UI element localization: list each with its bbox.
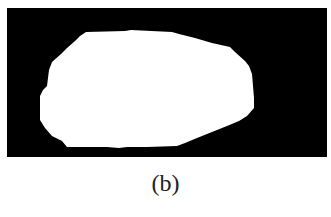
figure-caption: (b) (0, 168, 331, 198)
segmentation-mask-image (7, 8, 327, 157)
figure-canvas: (b) (0, 0, 331, 217)
mask-svg (7, 8, 327, 157)
